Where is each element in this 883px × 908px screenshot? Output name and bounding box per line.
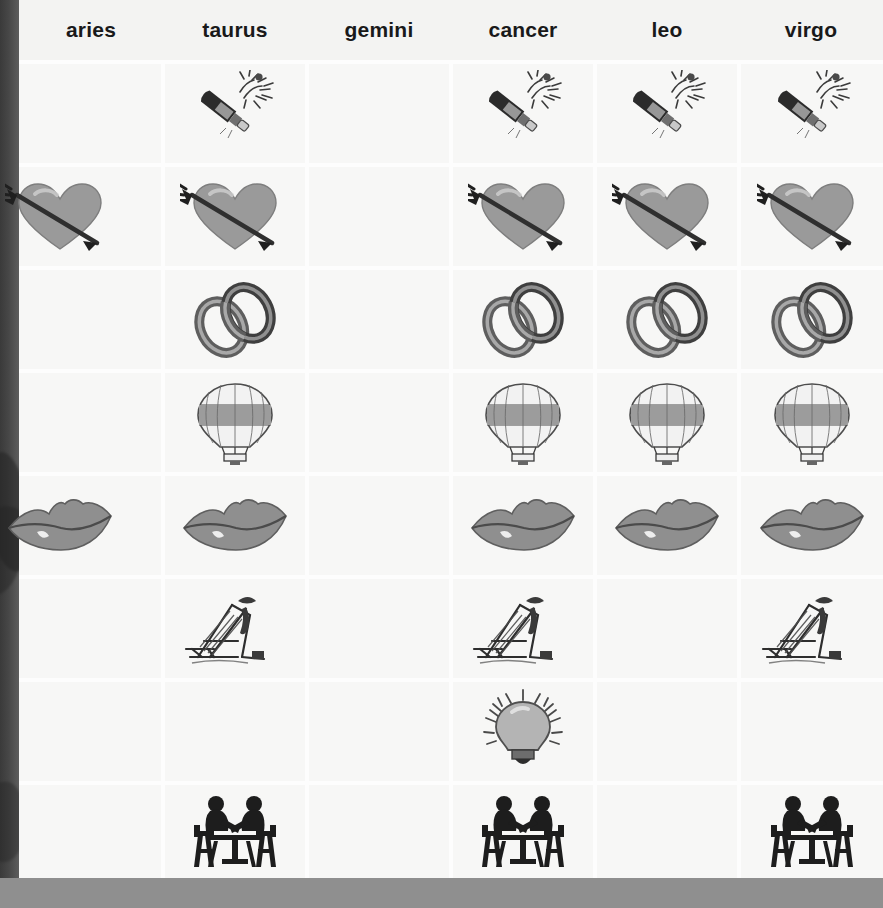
- deck-chair-icon: [757, 585, 867, 673]
- grid-cell-gemini-row1[interactable]: [307, 62, 451, 165]
- grid-cell-aries-row6[interactable]: [19, 577, 163, 680]
- grid-cell-leo-row3[interactable]: [595, 268, 739, 371]
- heart-with-arrow-icon: [468, 173, 578, 261]
- grid-cell-aries-row3[interactable]: [19, 268, 163, 371]
- grid-cell-virgo-row7[interactable]: [739, 680, 883, 783]
- grid-cell-leo-row5[interactable]: [595, 474, 739, 577]
- lips-kiss-icon: [180, 482, 290, 570]
- hot-air-balloon-icon: [180, 379, 290, 467]
- table-row: [19, 577, 883, 680]
- grid-cell-gemini-row7[interactable]: [307, 680, 451, 783]
- column-header-gemini: gemini: [307, 0, 451, 62]
- grid-cell-taurus-row8[interactable]: [163, 783, 307, 884]
- hot-air-balloon-icon: [757, 379, 867, 467]
- lips-kiss-icon: [468, 482, 578, 570]
- light-bulb-icon: [468, 688, 578, 776]
- champagne-bottle-icon: [180, 70, 290, 158]
- column-header-virgo: virgo: [739, 0, 883, 62]
- interlocking-rings-icon: [468, 276, 578, 364]
- grid-cell-cancer-row4[interactable]: [451, 371, 595, 474]
- grid-cell-virgo-row6[interactable]: [739, 577, 883, 680]
- grid-cell-virgo-row1[interactable]: [739, 62, 883, 165]
- grid-cell-cancer-row3[interactable]: [451, 268, 595, 371]
- grid-cell-taurus-row4[interactable]: [163, 371, 307, 474]
- grid-cell-taurus-row6[interactable]: [163, 577, 307, 680]
- grid-cell-leo-row4[interactable]: [595, 371, 739, 474]
- grid-cell-gemini-row4[interactable]: [307, 371, 451, 474]
- two-people-at-table-icon: [468, 791, 578, 879]
- column-header-taurus: taurus: [163, 0, 307, 62]
- grid-cell-aries-row2[interactable]: [19, 165, 163, 268]
- hot-air-balloon-icon: [468, 379, 578, 467]
- grid-cell-gemini-row5[interactable]: [307, 474, 451, 577]
- table-body: [19, 62, 883, 884]
- grid-cell-leo-row8[interactable]: [595, 783, 739, 884]
- champagne-bottle-icon: [468, 70, 578, 158]
- left-gutter-strip: [0, 0, 19, 908]
- heart-with-arrow-icon: [180, 173, 290, 261]
- grid-cell-cancer-row2[interactable]: [451, 165, 595, 268]
- grid-cell-gemini-row8[interactable]: [307, 783, 451, 884]
- interlocking-rings-icon: [612, 276, 722, 364]
- grid-cell-aries-row1[interactable]: [19, 62, 163, 165]
- table-row: [19, 680, 883, 783]
- grid-cell-leo-row1[interactable]: [595, 62, 739, 165]
- table-row: [19, 268, 883, 371]
- grid-cell-aries-row8[interactable]: [19, 783, 163, 884]
- two-people-at-table-icon: [180, 791, 290, 879]
- heart-with-arrow-icon: [757, 173, 867, 261]
- grid-cell-aries-row4[interactable]: [19, 371, 163, 474]
- grid-cell-gemini-row6[interactable]: [307, 577, 451, 680]
- hot-air-balloon-icon: [612, 379, 722, 467]
- grid-cell-virgo-row4[interactable]: [739, 371, 883, 474]
- grid-cell-aries-row5[interactable]: [19, 474, 163, 577]
- lips-kiss-icon: [612, 482, 722, 570]
- heart-with-arrow-icon: [612, 173, 722, 261]
- champagne-bottle-icon: [757, 70, 867, 158]
- column-header-aries: aries: [19, 0, 163, 62]
- grid-cell-taurus-row5[interactable]: [163, 474, 307, 577]
- grid-cell-taurus-row3[interactable]: [163, 268, 307, 371]
- grid-cell-gemini-row3[interactable]: [307, 268, 451, 371]
- deck-chair-icon: [180, 585, 290, 673]
- paper-sheet: aries taurus gemini cancer leo virgo: [19, 0, 883, 878]
- zodiac-symbol-table-page: aries taurus gemini cancer leo virgo: [0, 0, 883, 908]
- interlocking-rings-icon: [180, 276, 290, 364]
- zodiac-grid-table: aries taurus gemini cancer leo virgo: [19, 0, 883, 884]
- grid-cell-cancer-row8[interactable]: [451, 783, 595, 884]
- grid-cell-aries-row7[interactable]: [19, 680, 163, 783]
- grid-cell-cancer-row1[interactable]: [451, 62, 595, 165]
- grid-cell-cancer-row5[interactable]: [451, 474, 595, 577]
- grid-cell-leo-row7[interactable]: [595, 680, 739, 783]
- table-row: [19, 62, 883, 165]
- grid-cell-leo-row2[interactable]: [595, 165, 739, 268]
- grid-cell-virgo-row2[interactable]: [739, 165, 883, 268]
- champagne-bottle-icon: [612, 70, 722, 158]
- table-row: [19, 165, 883, 268]
- lips-kiss-icon: [5, 482, 115, 570]
- grid-cell-gemini-row2[interactable]: [307, 165, 451, 268]
- lips-kiss-icon: [757, 482, 867, 570]
- column-header-cancer: cancer: [451, 0, 595, 62]
- grid-cell-taurus-row2[interactable]: [163, 165, 307, 268]
- column-header-leo: leo: [595, 0, 739, 62]
- table-header-row: aries taurus gemini cancer leo virgo: [19, 0, 883, 62]
- gutter-smudge: [0, 780, 19, 864]
- grid-cell-cancer-row7[interactable]: [451, 680, 595, 783]
- table-row: [19, 474, 883, 577]
- table-row: [19, 783, 883, 884]
- two-people-at-table-icon: [757, 791, 867, 879]
- grid-cell-leo-row6[interactable]: [595, 577, 739, 680]
- footer-band: [0, 878, 883, 908]
- grid-cell-virgo-row5[interactable]: [739, 474, 883, 577]
- grid-cell-virgo-row3[interactable]: [739, 268, 883, 371]
- grid-cell-virgo-row8[interactable]: [739, 783, 883, 884]
- deck-chair-icon: [468, 585, 578, 673]
- table-row: [19, 371, 883, 474]
- interlocking-rings-icon: [757, 276, 867, 364]
- grid-cell-taurus-row1[interactable]: [163, 62, 307, 165]
- heart-with-arrow-icon: [5, 173, 115, 261]
- grid-cell-taurus-row7[interactable]: [163, 680, 307, 783]
- grid-cell-cancer-row6[interactable]: [451, 577, 595, 680]
